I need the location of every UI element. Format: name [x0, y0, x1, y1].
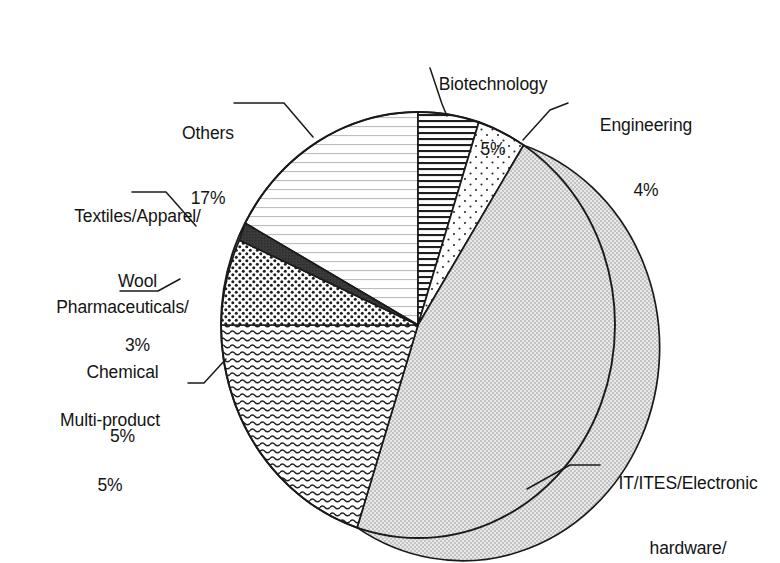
- pie-label-multiproduct-name: Multi-product: [20, 410, 200, 432]
- pie-label-engineering: Engineering 4%: [556, 72, 736, 244]
- figure-container: Biotechnology 5% Engineering 4% Others 1…: [0, 0, 780, 563]
- pie-label-others-name: Others: [128, 123, 288, 145]
- pie-label-it-line1: IT/ITES/Electronic: [598, 473, 778, 495]
- pie-label-multiproduct-value: 5%: [20, 475, 200, 497]
- pie-label-textiles-line1: Textiles/Apparel/: [30, 206, 245, 228]
- pie-label-pharma-line1: Pharmaceuticals/: [10, 297, 235, 319]
- pie-label-engineering-value: 4%: [556, 180, 736, 202]
- pie-label-multi-product: Multi-product 5%: [20, 367, 200, 539]
- figure-caption: Fig. 10.1 Sector-wise distribution of no…: [0, 548, 780, 563]
- pie-label-engineering-name: Engineering: [556, 115, 736, 137]
- pie-label-it-ites: IT/ITES/Electronic hardware/ Semiconduct…: [598, 430, 778, 563]
